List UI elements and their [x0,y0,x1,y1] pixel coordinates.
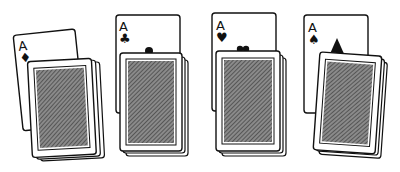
deck-clubs [120,53,188,156]
heart-suit-icon: ♥ [216,30,228,45]
illustration-canvas: A ♦ A ♣ A ♥ [0,0,400,172]
ace-clubs-group: A ♣ [116,15,188,156]
club-suit-icon: ♣ [119,31,131,46]
spade-suit-icon: ♠ [308,32,320,47]
deck-spades [313,52,388,158]
card-back-pattern [36,68,88,148]
ace-diamonds-group: A ♦ [13,29,104,162]
ace-hearts-group: A ♥ [212,13,286,156]
aces-illustration: A ♦ A ♣ A ♥ [0,0,400,172]
card-back-pattern [128,61,174,143]
card-back-pattern [322,61,373,144]
card-back-pattern [224,60,272,142]
deck-diamonds [27,58,104,162]
ace-spades-group: A ♠ [304,15,388,158]
deck-hearts [216,51,286,156]
